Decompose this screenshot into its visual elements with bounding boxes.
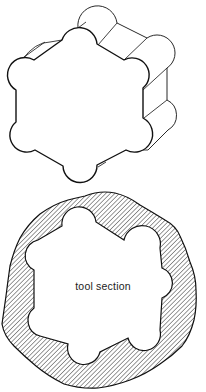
extrusion-edge [98, 23, 117, 45]
extrusion-edge [124, 38, 147, 60]
tool-section-label: tool section [0, 280, 206, 292]
extruded-tool-drawing [8, 6, 177, 183]
diagram-canvas [0, 0, 206, 392]
extrusion-edge [144, 100, 167, 118]
front-face-outline [8, 28, 153, 183]
